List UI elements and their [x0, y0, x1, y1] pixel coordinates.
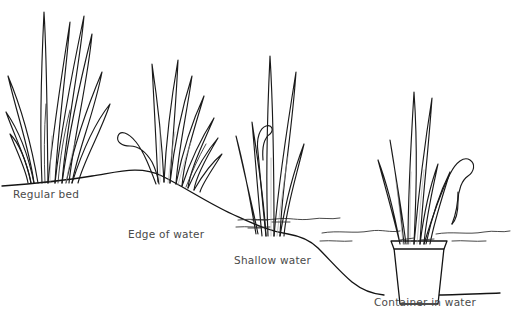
- plant-container-in-water: [378, 92, 474, 304]
- line-drawing-canvas: [0, 0, 514, 321]
- plant-shallow-water: [236, 56, 304, 236]
- label-edge-of-water: Edge of water: [128, 228, 204, 240]
- illustration-waterside-planting: Regular bed Edge of water Shallow water …: [0, 0, 514, 321]
- plant-edge-of-water: [118, 60, 222, 192]
- label-container-in-water: Container in water: [374, 296, 476, 308]
- label-regular-bed: Regular bed: [13, 188, 79, 200]
- plant-regular-bed: [6, 12, 110, 183]
- water-surface-lines: [236, 218, 510, 241]
- label-shallow-water: Shallow water: [234, 254, 311, 266]
